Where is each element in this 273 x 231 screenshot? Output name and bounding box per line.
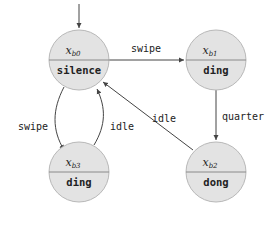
transition-label: swipe (131, 43, 161, 54)
transition-xb2-xb0: idle (103, 82, 193, 150)
transition-xb0-xb1: swipe (109, 43, 184, 60)
state-xb2: xb2 dong (186, 142, 246, 202)
state-output: ding (203, 64, 228, 76)
state-output: dong (203, 176, 228, 188)
state-diagram: swipe quarter idle swipe idle xb0 silenc… (0, 0, 273, 231)
state-xb0: xb0 silence (49, 30, 109, 90)
state-xb1: xb1 ding (186, 30, 246, 90)
state-output: ding (66, 176, 91, 188)
state-xb3: xb3 ding (49, 142, 109, 202)
state-output: silence (57, 64, 101, 76)
transition-label: quarter (222, 111, 264, 122)
transition-label: swipe (18, 121, 48, 132)
transition-label: idle (110, 121, 134, 132)
transition-label: idle (152, 113, 176, 124)
transition-xb3-xb0: idle (94, 89, 134, 145)
transition-xb0-xb3: swipe (18, 87, 64, 150)
transition-xb1-xb2: quarter (216, 90, 264, 140)
